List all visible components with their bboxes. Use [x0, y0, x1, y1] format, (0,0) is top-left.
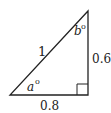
- triangle-figure: 1 0.6 0.8 a o b o: [0, 0, 111, 113]
- angle-a-label: a: [27, 80, 34, 94]
- hypotenuse-label: 1: [38, 44, 46, 59]
- right-angle-marker: [77, 84, 88, 95]
- angle-a-degree: o: [35, 77, 40, 86]
- base-label: 0.8: [40, 99, 59, 113]
- height-label: 0.6: [92, 52, 111, 66]
- angle-b-degree: o: [81, 22, 86, 31]
- triangle-diagram: 1 0.6 0.8 a o b o: [0, 0, 111, 113]
